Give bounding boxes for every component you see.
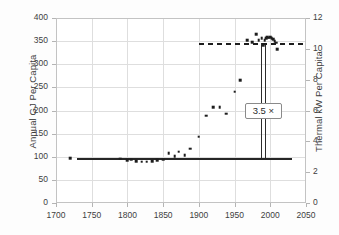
- y-axis-right-tick-label: 0: [313, 197, 337, 207]
- y-axis-left-tickmark: [52, 111, 56, 112]
- data-point: [156, 159, 159, 162]
- x-axis-tick-label: 2000: [250, 210, 290, 220]
- data-point: [239, 79, 242, 82]
- data-point: [255, 33, 258, 36]
- x-axis-tickmark: [163, 203, 164, 207]
- data-point: [119, 157, 122, 160]
- data-point: [262, 44, 265, 47]
- data-point: [178, 150, 181, 153]
- x-axis-tickmark: [127, 203, 128, 207]
- y-axis-left-tick-label: 150: [20, 128, 48, 138]
- data-point: [183, 154, 186, 157]
- y-axis-left-tick-label: 300: [20, 58, 48, 68]
- x-axis-tickmark: [235, 203, 236, 207]
- gridline-horizontal: [57, 180, 305, 181]
- gridline-horizontal: [57, 87, 305, 88]
- x-axis-tickmark: [56, 203, 57, 207]
- data-point: [198, 136, 201, 139]
- x-axis-tick-label: 1850: [143, 210, 183, 220]
- y-axis-left-tick-label: 350: [20, 35, 48, 45]
- gridline-horizontal: [57, 41, 305, 42]
- data-point: [275, 41, 278, 44]
- data-point: [140, 161, 143, 164]
- gridline-vertical: [199, 19, 200, 202]
- data-point: [233, 90, 236, 93]
- y-axis-left-tickmark: [52, 64, 56, 65]
- y-axis-right-tickmark: [306, 141, 310, 142]
- gridline-horizontal: [57, 134, 305, 135]
- reference-line-modern-level: [199, 43, 306, 45]
- data-point: [212, 106, 215, 109]
- y-axis-left-tick-label: 200: [20, 105, 48, 115]
- gridline-vertical: [235, 19, 236, 202]
- gridline-horizontal: [57, 64, 305, 65]
- data-point: [130, 158, 133, 161]
- data-point: [173, 155, 176, 158]
- data-point: [276, 48, 279, 51]
- reference-line-pre-industrial-baseline: [77, 158, 291, 160]
- y-axis-right-tick-label: 10: [313, 43, 337, 53]
- data-point: [168, 152, 171, 155]
- data-point: [69, 157, 72, 160]
- y-axis-left-tickmark: [52, 134, 56, 135]
- y-axis-left-tick-label: 0: [20, 197, 48, 207]
- data-point: [189, 148, 192, 151]
- y-axis-right-tickmark: [306, 18, 310, 19]
- y-axis-left-tickmark: [52, 18, 56, 19]
- y-axis-left-tickmark: [52, 41, 56, 42]
- data-point: [126, 159, 129, 162]
- x-axis-tick-label: 1900: [179, 210, 219, 220]
- y-axis-left-tick-label: 400: [20, 12, 48, 22]
- x-axis-tick-label: 2050: [286, 210, 326, 220]
- y-axis-left-tickmark: [52, 157, 56, 158]
- data-point: [251, 41, 254, 44]
- x-axis-tickmark: [92, 203, 93, 207]
- reference-line-modern-plateau-1: [261, 43, 262, 157]
- data-point: [205, 114, 208, 117]
- y-axis-right-tickmark: [306, 49, 310, 50]
- y-axis-right-tick-label: 12: [313, 12, 337, 22]
- data-point: [135, 160, 138, 163]
- y-axis-right-tickmark: [306, 172, 310, 173]
- y-axis-right-tick-label: 8: [313, 74, 337, 84]
- data-point: [162, 158, 165, 161]
- x-axis-tick-label: 1950: [215, 210, 255, 220]
- data-point: [225, 112, 228, 115]
- y-axis-right-tick-label: 2: [313, 166, 337, 176]
- gridline-vertical: [92, 19, 93, 202]
- x-axis-tick-label: 1700: [36, 210, 76, 220]
- y-axis-right-tick-label: 6: [313, 105, 337, 115]
- y-axis-left-tickmark: [52, 87, 56, 88]
- y-axis-right-tickmark: [306, 111, 310, 112]
- x-axis-tickmark: [199, 203, 200, 207]
- y-axis-right-tickmark: [306, 80, 310, 81]
- chart-container: Annual GJ Per Capita Thermal kW Per Capi…: [0, 0, 339, 235]
- data-point: [246, 39, 249, 42]
- x-axis-tick-label: 1800: [107, 210, 147, 220]
- x-axis-tickmark: [270, 203, 271, 207]
- y-axis-left-tick-label: 100: [20, 151, 48, 161]
- gridline-vertical: [163, 19, 164, 202]
- data-point: [145, 161, 148, 164]
- reference-line-modern-plateau-2: [265, 43, 266, 157]
- x-axis-tick-label: 1750: [72, 210, 112, 220]
- y-axis-left-tick-label: 50: [20, 174, 48, 184]
- y-axis-left-tick-label: 250: [20, 81, 48, 91]
- data-point: [151, 160, 154, 163]
- y-axis-left-tickmark: [52, 180, 56, 181]
- y-axis-right-tick-label: 4: [313, 135, 337, 145]
- annotation-ratio-callout: 3.5 ×: [245, 103, 282, 119]
- x-axis-tickmark: [306, 203, 307, 207]
- gridline-vertical: [127, 19, 128, 202]
- data-point: [218, 106, 221, 109]
